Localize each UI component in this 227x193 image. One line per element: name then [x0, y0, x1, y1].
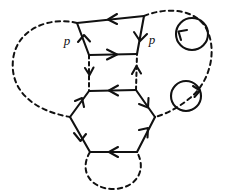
label-p-right: p — [148, 32, 156, 47]
small-loop-upper-right-arrowhead — [179, 30, 188, 40]
hex-upper-left-edge — [70, 91, 89, 117]
diagram-root: p p — [0, 0, 227, 193]
small-loop-upper-right — [176, 18, 208, 50]
quad-bottom-edge — [89, 54, 137, 55]
hex-top-edge — [89, 90, 136, 91]
dashed-connector-right — [136, 54, 137, 90]
hex-lower-right-edge — [137, 117, 155, 152]
quad-right-edge — [137, 16, 144, 54]
hex-lower-left-edge — [70, 117, 90, 152]
graph-canvas: p p — [0, 0, 227, 193]
dashed-bottom-loop — [86, 152, 141, 189]
label-p-left: p — [63, 33, 71, 48]
